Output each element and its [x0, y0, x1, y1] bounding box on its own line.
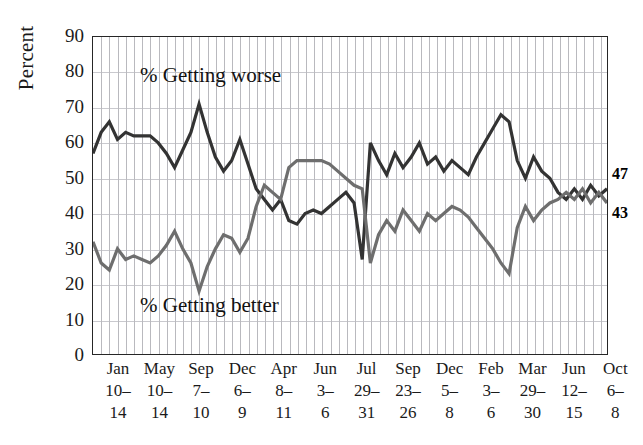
y-tick-80: 80	[40, 61, 84, 80]
y-tick-90: 90	[40, 26, 84, 45]
annotation-getting-worse: % Getting worse	[140, 63, 281, 88]
x-tick-group: Oct6–8	[588, 358, 642, 424]
series-line-getting-better	[93, 161, 607, 292]
y-tick-20: 20	[40, 274, 84, 293]
y-tick-30: 30	[40, 239, 84, 258]
annotation-getting-better: % Getting better	[140, 293, 279, 318]
y-tick-70: 70	[40, 97, 84, 116]
end-label-worse: 47	[612, 166, 628, 182]
y-tick-60: 60	[40, 132, 84, 151]
y-tick-10: 10	[40, 310, 84, 329]
x-tick-range: 6–	[588, 380, 642, 402]
chart-root: Percent 9080706050403020100 % Getting wo…	[0, 0, 643, 445]
x-tick-end: 8	[588, 402, 642, 424]
x-tick-month: Oct	[588, 358, 642, 380]
y-tick-40: 40	[40, 203, 84, 222]
y-tick-50: 50	[40, 168, 84, 187]
end-label-better: 43	[612, 205, 628, 221]
x-axis-tick-labels: Jan10–14May10–14Sep7–10Dec6–9Apr8–11Jun3…	[0, 358, 643, 445]
